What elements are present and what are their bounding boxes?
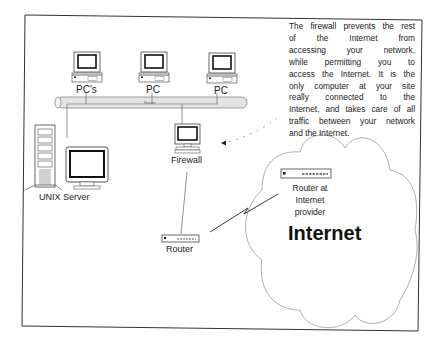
- note-line: of the Internet from: [289, 33, 415, 45]
- pc1-label: PC's: [76, 84, 97, 95]
- internet-label: Internet: [288, 222, 361, 245]
- firewall-label: Firewall: [171, 155, 202, 165]
- note-line: really connected to the: [289, 92, 415, 104]
- unix-server-label: UNIX Server: [39, 192, 90, 202]
- note-line: while permitting you to: [289, 57, 415, 69]
- router-icon: [162, 235, 199, 242]
- note-line: access the Internet. It is the: [289, 69, 415, 81]
- firewall-explanation-note: The firewall prevents the rest of the In…: [289, 21, 415, 140]
- note-line: only computer at your site: [289, 81, 415, 93]
- provider-router-label-line-1: Router at: [285, 182, 335, 194]
- note-line: The firewall prevents the rest: [289, 21, 415, 33]
- pc3-label: PC: [214, 85, 228, 96]
- pc-icon-1: [72, 52, 102, 82]
- provider-router-label-line-3: provider: [285, 206, 335, 218]
- router-label: Router: [166, 244, 193, 254]
- provider-router-label-line-2: Internet: [285, 194, 335, 206]
- provider-router-icon: [281, 169, 331, 178]
- note-line: and the Internet.: [289, 128, 415, 140]
- ethernet-label: Ethernet: [144, 101, 155, 105]
- pc-icon-2: [139, 52, 169, 82]
- pc2-label: PC: [146, 84, 160, 95]
- provider-router-label: Router at Internet provider: [285, 182, 335, 218]
- note-line: traffic between your network: [289, 116, 415, 128]
- note-line: Internet, and takes care of all: [289, 104, 415, 116]
- note-line: accessing your network,: [289, 45, 415, 57]
- firewall-computer-icon: [175, 124, 200, 153]
- pc-icon-3: [207, 53, 237, 83]
